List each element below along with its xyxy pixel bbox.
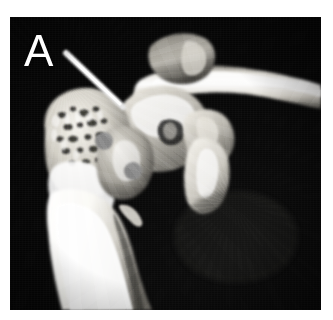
- humeral-shaft: [47, 189, 152, 310]
- cortical-defect-superior: [95, 132, 113, 150]
- anatomy-rendering: [10, 17, 321, 310]
- figure-panel: A: [0, 0, 333, 320]
- soft-tissue-haze: [174, 191, 298, 283]
- cortical-defect-inferior: [124, 162, 142, 180]
- panel-label: A: [24, 29, 53, 73]
- ct-volume-render-image: A: [10, 17, 321, 310]
